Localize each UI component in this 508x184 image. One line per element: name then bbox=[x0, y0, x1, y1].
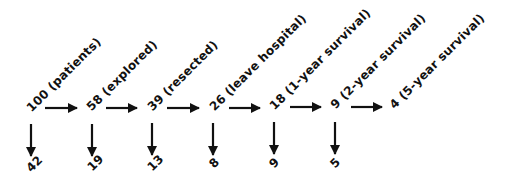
arrows-layer bbox=[0, 0, 508, 184]
drop-count-19: 19 bbox=[85, 153, 105, 173]
drop-count-8: 8 bbox=[207, 156, 221, 170]
drop-count-5: 5 bbox=[328, 156, 342, 170]
drop-count-42: 42 bbox=[24, 154, 44, 174]
drop-arrows bbox=[31, 122, 335, 156]
drop-count-9: 9 bbox=[267, 156, 281, 170]
stage-label-leave-hospital: 26 (leave hospital) bbox=[208, 12, 309, 113]
drop-count-13: 13 bbox=[145, 153, 165, 173]
attrition-flow-diagram: 100 (patients) 58 (explored) 39 (resecte… bbox=[0, 0, 508, 184]
stage-label-1-year: 18 (1-year survival) bbox=[268, 7, 373, 112]
